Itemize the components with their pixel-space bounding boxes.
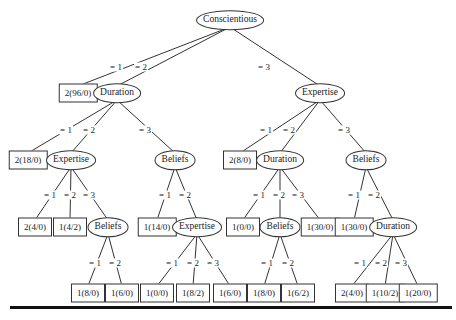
edge-label: = 1 bbox=[88, 259, 102, 268]
edge-label: = 3 bbox=[257, 63, 271, 72]
attribute-node: Duration bbox=[256, 150, 304, 170]
leaf-node: 1(20/0) bbox=[399, 284, 438, 303]
leaf-node: 1(8/2) bbox=[176, 284, 210, 303]
tree-edge bbox=[78, 27, 230, 86]
edge-label: = 2 bbox=[367, 191, 381, 200]
tree-edge bbox=[117, 27, 230, 86]
edge-label: = 2 bbox=[82, 126, 96, 135]
attribute-node: Beliefs bbox=[155, 150, 196, 170]
edge-label: = 1 bbox=[260, 259, 274, 268]
leaf-node: 2(8/0) bbox=[223, 151, 257, 170]
edge-label: = 1 bbox=[165, 259, 179, 268]
edge-label: = 2 bbox=[63, 191, 77, 200]
edge-label: = 1 bbox=[59, 126, 73, 135]
leaf-node: 1(14/0) bbox=[138, 218, 177, 237]
leaf-node: 1(4/2) bbox=[53, 218, 87, 237]
edge-label: = 2 bbox=[272, 191, 286, 200]
edge-label: = 3 bbox=[394, 259, 408, 268]
tree-edge bbox=[240, 100, 320, 153]
leaf-node: 1(0/0) bbox=[226, 218, 260, 237]
leaf-node: 2(4/0) bbox=[335, 284, 369, 303]
edge-label: = 3 bbox=[138, 126, 152, 135]
attribute-node: Expertise bbox=[46, 150, 96, 170]
leaf-node: 2(4/0) bbox=[18, 218, 52, 237]
leaf-node: 1(30/0) bbox=[335, 218, 374, 237]
edge-label: = 1 bbox=[347, 191, 361, 200]
leaf-node: 1(30/0) bbox=[301, 218, 340, 237]
attribute-node: Duration bbox=[369, 217, 417, 237]
leaf-node: 1(6/0) bbox=[213, 284, 247, 303]
attribute-node: Beliefs bbox=[346, 150, 387, 170]
edge-label: = 2 bbox=[282, 126, 296, 135]
edge-label: = 3 bbox=[206, 259, 220, 268]
edge-label: = 2 bbox=[178, 191, 192, 200]
edge-label: = 1 bbox=[252, 191, 266, 200]
leaf-node: 1(6/2) bbox=[281, 284, 315, 303]
leaf-node: 1(8/0) bbox=[71, 284, 105, 303]
leaf-node: 2(18/0) bbox=[9, 151, 48, 170]
edge-label: = 2 bbox=[186, 259, 200, 268]
edge-label: = 1 bbox=[43, 191, 57, 200]
edge-label: = 1 bbox=[259, 126, 273, 135]
edge-label: = 2 bbox=[134, 63, 148, 72]
edge-label: = 2 bbox=[108, 259, 122, 268]
edge-label: = 3 bbox=[337, 126, 351, 135]
edge-label: = 2 bbox=[374, 259, 388, 268]
leaf-node: 1(6/0) bbox=[105, 284, 139, 303]
edge-label: = 1 bbox=[158, 191, 172, 200]
edge-label: = 3 bbox=[82, 191, 96, 200]
edge-label: = 1 bbox=[109, 63, 123, 72]
edge-label: = 1 bbox=[353, 259, 367, 268]
leaf-node: 2(96/0) bbox=[59, 84, 98, 103]
attribute-node: Beliefs bbox=[88, 217, 129, 237]
edge-label: = 3 bbox=[291, 191, 305, 200]
tree-edge bbox=[230, 27, 320, 86]
edge-label: = 2 bbox=[281, 259, 295, 268]
attribute-node: Expertise bbox=[295, 83, 345, 103]
bottom-rule bbox=[10, 306, 452, 309]
leaf-node: 1(8/0) bbox=[247, 284, 281, 303]
attribute-node: Beliefs bbox=[260, 217, 301, 237]
attribute-node: Expertise bbox=[172, 217, 222, 237]
leaf-node: 1(0/0) bbox=[140, 284, 174, 303]
attribute-node: Duration bbox=[93, 83, 141, 103]
attribute-node: Conscientious bbox=[196, 10, 264, 30]
